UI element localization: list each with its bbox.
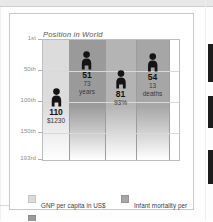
figure-frame: Position in World 110$12305173years8193%… (9, 13, 194, 210)
legend-column-left: GNP per capita in US$Life expectancyLite… (28, 194, 121, 221)
chart-datapoint: 5173years (79, 51, 95, 95)
datapoint-value: 93% (114, 99, 127, 107)
datapoint-rank: 81 (114, 90, 127, 99)
chart-y-tick-label: 193rd (13, 155, 36, 161)
legend-label: GNP per capita in US$ (41, 202, 106, 209)
scan-artifact-bar (208, 44, 213, 82)
person-icon (114, 70, 127, 89)
chart-y-tick-label: 50th (13, 66, 36, 72)
page-top-rule (0, 6, 213, 7)
legend-swatch (28, 215, 36, 221)
chart-title: Position in World (43, 30, 103, 39)
chart-y-tick (38, 132, 42, 133)
legend-swatch (28, 195, 36, 203)
chart-y-tick (38, 101, 42, 102)
legend-column-right: Infant mortality per1000 live birthsHuma… (121, 194, 200, 221)
legend-item: GNP per capita in US$ (28, 194, 121, 212)
datapoint-rank: 51 (79, 71, 95, 80)
chart-y-tick (38, 159, 42, 160)
datapoint-value: 13 (143, 82, 163, 90)
chart-band-separator (136, 40, 137, 160)
legend-item: Infant mortality per1000 live births (121, 194, 200, 221)
chart-y-tick-label: 150th (13, 128, 36, 134)
datapoint-value: $1230 (47, 117, 65, 125)
chart-datapoint: 110$1230 (47, 88, 65, 125)
chart-legend: GNP per capita in US$Life expectancyLite… (28, 194, 200, 221)
chart-y-tick-label: 1st (13, 35, 36, 41)
legend-swatch (121, 195, 129, 203)
page-root: Position in World 110$12305173years8193%… (0, 0, 213, 221)
page-left-rule (0, 7, 1, 221)
datapoint-rank: 110 (47, 108, 65, 117)
legend-label: Infant mortality per (134, 202, 187, 209)
person-icon (146, 53, 159, 72)
person-icon (49, 88, 62, 107)
chart-gridline (43, 160, 179, 161)
chart-y-tick (38, 39, 42, 40)
chart-datapoint: 5413deaths (143, 53, 163, 97)
chart-band-separator (69, 40, 70, 160)
scan-artifact-bar (208, 96, 213, 128)
legend-label-line2: 1000 live births (134, 220, 177, 221)
scan-artifact-bar (208, 150, 213, 184)
chart-band-separator (105, 40, 106, 160)
chart-plot-area: 110$12305173years8193%5413deaths (42, 39, 180, 161)
page-right-rule (205, 0, 206, 221)
chart-y-tick (38, 70, 42, 71)
person-icon (81, 51, 94, 70)
chart-y-tick-label: 100th (13, 97, 36, 103)
chart-gridline (43, 133, 179, 134)
datapoint-unit: years (79, 88, 95, 96)
legend-item: Life expectancy (28, 215, 121, 222)
chart-band-separator (169, 40, 170, 160)
datapoint-rank: 54 (143, 73, 163, 82)
chart-datapoint: 8193% (114, 70, 127, 107)
datapoint-unit: deaths (143, 90, 163, 98)
datapoint-value: 73 (79, 80, 95, 88)
